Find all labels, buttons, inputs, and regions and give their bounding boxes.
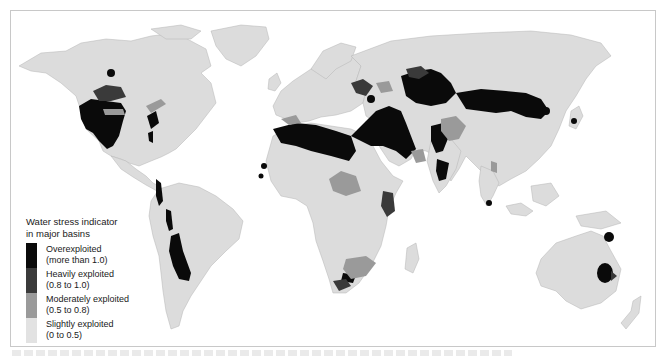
legend-range: (more than 1.0) [46, 255, 108, 266]
legend-label: Moderately exploited [46, 294, 129, 305]
madagascar [405, 243, 419, 273]
north-america [19, 33, 216, 166]
legend-range: (0.5 to 0.8) [46, 305, 129, 316]
new-guinea [576, 211, 621, 229]
british-isles [268, 73, 281, 91]
legend: Water stress indicator in major basins O… [26, 216, 156, 343]
south-america [149, 183, 243, 329]
swatch-slightly [26, 318, 37, 343]
japan [569, 106, 583, 129]
legend-title-line2: in major basins [26, 228, 90, 239]
legend-item-slightly: Slightly exploited (0 to 0.5) [26, 318, 156, 343]
swatch-heavily [26, 268, 37, 293]
legend-item-heavily: Heavily exploited (0.8 to 1.0) [26, 268, 156, 293]
legend-title-line1: Water stress indicator [26, 216, 118, 227]
legend-label: Heavily exploited [46, 269, 114, 280]
indonesia [506, 203, 533, 216]
swatch-overexploited [26, 243, 37, 268]
new-zealand [621, 296, 641, 329]
legend-range: (0.8 to 1.0) [46, 280, 114, 291]
legend-label: Slightly exploited [46, 319, 114, 330]
legend-title: Water stress indicator in major basins [26, 216, 156, 240]
borneo [531, 183, 559, 206]
greenland [211, 25, 269, 66]
map-frame: Water stress indicator in major basins O… [10, 10, 656, 347]
source-line-cropped [12, 350, 512, 356]
legend-item-moderately: Moderately exploited (0.5 to 0.8) [26, 293, 156, 318]
legend-range: (0 to 0.5) [46, 330, 114, 341]
legend-label: Overexploited [46, 244, 108, 255]
legend-item-overexploited: Overexploited (more than 1.0) [26, 243, 156, 268]
swatch-moderately [26, 293, 37, 318]
